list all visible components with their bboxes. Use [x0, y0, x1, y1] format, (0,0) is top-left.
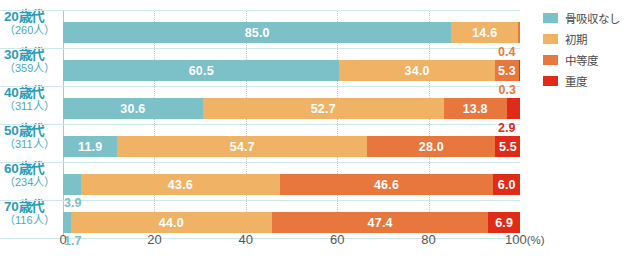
legend-label: 骨吸収なし: [565, 10, 620, 26]
category-age: 60歳代: [4, 162, 61, 176]
category-label-6: 70歳代（116人）: [4, 200, 61, 227]
legend-item-1[interactable]: 骨吸収なし: [543, 8, 633, 27]
x-axis-tick-20: 20: [147, 232, 161, 247]
bar-segment[interactable]: [518, 22, 520, 43]
legend-swatch-icon: [543, 13, 558, 23]
bar-segment[interactable]: 47.4: [272, 212, 489, 233]
row-separator: [0, 48, 520, 49]
segment-value-label: 85.0: [245, 26, 270, 40]
segment-callout-label: 0.3: [498, 83, 515, 97]
chart-legend: 骨吸収なし初期中等度重度: [543, 8, 633, 92]
segment-value-label: 11.9: [78, 140, 102, 154]
bar-segment[interactable]: 85.0: [63, 22, 451, 43]
legend-item-2[interactable]: 初期: [543, 29, 633, 48]
legend-swatch-icon: [543, 34, 558, 44]
segment-value-label: 13.8: [463, 102, 488, 116]
bar-segment[interactable]: [507, 98, 520, 119]
bar-row: 44.047.46.9: [63, 212, 520, 233]
category-label-3: 40歳代（311人）: [4, 86, 61, 113]
bar-segment[interactable]: 14.6: [451, 22, 518, 43]
x-axis-tick-40: 40: [239, 232, 253, 247]
segment-value-label: 47.4: [368, 216, 393, 230]
bar-segment[interactable]: 43.6: [81, 174, 280, 195]
bar-row: 11.954.728.05.5: [63, 136, 520, 157]
category-age: 20歳代: [4, 10, 61, 24]
bar-segment[interactable]: [63, 212, 71, 233]
segment-value-label: 46.6: [374, 178, 399, 192]
bar-segment[interactable]: 5.5: [495, 136, 520, 157]
segment-value-label: 14.6: [472, 26, 497, 40]
bar-segment[interactable]: 6.0: [493, 174, 520, 195]
category-count: （260人）: [4, 25, 61, 37]
row-separator: [0, 162, 520, 163]
bar-segment[interactable]: 30.6: [63, 98, 203, 119]
bar-segment[interactable]: 54.7: [117, 136, 367, 157]
row-separator: [0, 124, 520, 125]
category-label-5: 60歳代（234人）: [4, 162, 61, 189]
segment-value-label: 34.0: [405, 64, 430, 78]
category-count: （311人）: [4, 101, 61, 113]
bar-segment[interactable]: 44.0: [71, 212, 272, 233]
segment-value-label: 52.7: [311, 102, 336, 116]
bar-segment[interactable]: 52.7: [203, 98, 444, 119]
segment-value-label: 6.0: [498, 178, 516, 192]
bar-row: 30.652.713.8: [63, 98, 520, 119]
segment-callout-label: 2.9: [498, 121, 515, 135]
bar-segment[interactable]: 60.5: [63, 60, 339, 81]
bar-segment[interactable]: [63, 174, 81, 195]
legend-swatch-icon: [543, 55, 558, 65]
category-count: （234人）: [4, 177, 61, 189]
x-axis-tick-100: 100(%): [505, 232, 545, 247]
category-label-1: 20歳代（260人）: [4, 10, 61, 37]
legend-item-3[interactable]: 中等度: [543, 50, 633, 69]
category-age: 40歳代: [4, 86, 61, 100]
row-separator: [0, 86, 520, 87]
plot-area: 0.485.014.60.360.534.05.32.930.652.713.8…: [63, 0, 520, 236]
category-label-2: 30歳代（359人）: [4, 48, 61, 75]
category-count: （311人）: [4, 139, 61, 151]
legend-label: 初期: [565, 31, 587, 47]
segment-value-label: 30.6: [120, 102, 145, 116]
legend-item-4[interactable]: 重度: [543, 71, 633, 90]
category-count: （116人）: [4, 215, 61, 227]
bar-segment[interactable]: [519, 60, 520, 81]
segment-value-label: 5.3: [498, 64, 516, 78]
segment-value-label: 5.5: [499, 140, 517, 154]
segment-value-label: 44.0: [159, 216, 184, 230]
segment-value-label: 28.0: [419, 140, 444, 154]
segment-callout-label: 3.9: [64, 196, 81, 210]
category-age: 30歳代: [4, 48, 61, 62]
row-separator: [0, 10, 520, 11]
legend-label: 重度: [565, 73, 587, 89]
stacked-bar-chart: 20歳代（260人）30歳代（359人）40歳代（311人）50歳代（311人）…: [0, 0, 633, 261]
legend-label: 中等度: [565, 52, 598, 68]
bar-segment[interactable]: 5.3: [495, 60, 519, 81]
x-axis-tick-0: 0: [59, 232, 66, 247]
category-count: （359人）: [4, 63, 61, 75]
segment-value-label: 43.6: [168, 178, 193, 192]
x-axis-unit: (%): [527, 234, 545, 246]
category-label-4: 50歳代（311人）: [4, 124, 61, 151]
bar-segment[interactable]: 6.9: [488, 212, 520, 233]
bar-row: 43.646.66.0: [63, 174, 520, 195]
legend-swatch-icon: [543, 76, 558, 86]
x-axis-tick-60: 60: [330, 232, 344, 247]
bar-segment[interactable]: 46.6: [280, 174, 493, 195]
category-age: 70歳代: [4, 200, 61, 214]
segment-callout-label: 0.4: [498, 45, 515, 59]
bar-segment[interactable]: 34.0: [339, 60, 494, 81]
segment-value-label: 60.5: [189, 64, 214, 78]
category-age: 50歳代: [4, 124, 61, 138]
bar-segment[interactable]: 11.9: [63, 136, 117, 157]
segment-value-label: 54.7: [230, 140, 255, 154]
bar-segment[interactable]: 28.0: [367, 136, 495, 157]
bar-row: 85.014.6: [63, 22, 520, 43]
bar-row: 60.534.05.3: [63, 60, 520, 81]
x-axis-tick-80: 80: [421, 232, 435, 247]
segment-value-label: 6.9: [495, 216, 513, 230]
bar-segment[interactable]: 13.8: [444, 98, 507, 119]
